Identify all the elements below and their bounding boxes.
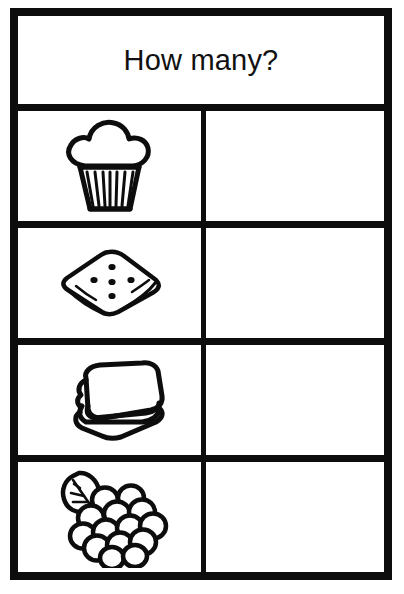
table-row	[18, 228, 384, 345]
table-row	[18, 345, 384, 462]
answer-cell[interactable]	[206, 345, 384, 455]
grapes-icon	[43, 466, 177, 568]
answer-cell[interactable]	[206, 228, 384, 338]
page-title: How many?	[124, 46, 279, 75]
picture-cell-cracker	[18, 228, 206, 338]
picture-cell-muffin	[18, 111, 206, 221]
cracker-icon	[46, 240, 174, 326]
muffin-icon	[51, 114, 169, 218]
answer-cell[interactable]	[206, 111, 384, 221]
answer-cell[interactable]	[206, 462, 384, 572]
table-row	[18, 462, 384, 572]
picture-cell-grapes	[18, 462, 206, 572]
table-row	[18, 111, 384, 228]
sandwich-icon	[46, 356, 174, 444]
worksheet-table: How many?	[10, 8, 392, 580]
table-header-row: How many?	[18, 16, 384, 111]
picture-cell-sandwich	[18, 345, 206, 455]
